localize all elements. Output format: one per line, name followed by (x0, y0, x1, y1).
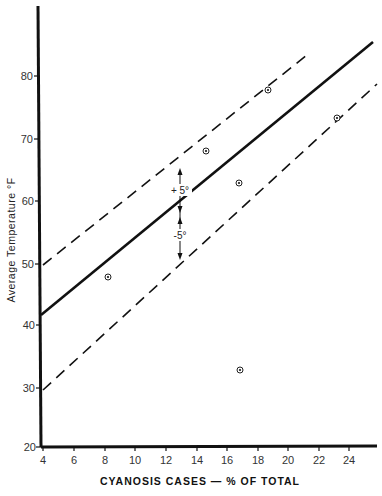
data-point (236, 180, 242, 186)
svg-text:14: 14 (191, 454, 203, 466)
scatter-chart: 80 70 60 50 40 30 20 4 6 8 10 12 14 16 1… (0, 0, 382, 496)
svg-text:6: 6 (71, 454, 77, 466)
band-annotation: + 5° -5° (168, 168, 192, 260)
svg-text:20: 20 (282, 454, 294, 466)
data-point (105, 274, 111, 280)
svg-text:18: 18 (252, 454, 264, 466)
svg-text:60: 60 (22, 195, 34, 207)
svg-text:30: 30 (23, 382, 35, 394)
x-axis-title: CYANOSIS CASES — % OF TOTAL (100, 475, 300, 487)
svg-text:40: 40 (23, 319, 35, 331)
svg-text:22: 22 (313, 454, 325, 466)
regression-line (41, 42, 373, 315)
svg-text:50: 50 (22, 258, 34, 270)
plus-five-label: + 5° (171, 185, 189, 196)
svg-text:4: 4 (40, 454, 46, 466)
data-point (334, 115, 340, 121)
svg-text:8: 8 (102, 454, 108, 466)
y-axis-title: Average Temperature °F (5, 177, 17, 302)
svg-text:24: 24 (343, 454, 355, 466)
svg-text:12: 12 (160, 454, 172, 466)
svg-text:10: 10 (129, 454, 141, 466)
svg-text:16: 16 (221, 454, 233, 466)
y-tick-labels: 80 70 60 50 40 30 20 (21, 70, 36, 453)
svg-text:70: 70 (21, 133, 33, 145)
data-point (237, 367, 243, 373)
data-point (203, 148, 209, 154)
y-axis (38, 6, 41, 447)
svg-text:80: 80 (21, 70, 33, 82)
x-tick-labels: 4 6 8 10 12 14 16 18 20 22 24 (40, 454, 355, 466)
x-axis (41, 446, 377, 447)
lower-band-line (43, 84, 377, 390)
data-point (265, 87, 271, 93)
minus-five-label: -5° (174, 230, 187, 241)
data-points (105, 87, 340, 373)
svg-text:20: 20 (24, 441, 36, 453)
